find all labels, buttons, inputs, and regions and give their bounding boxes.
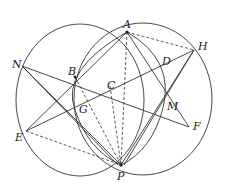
- arc-right-inner: [121, 32, 165, 165]
- label-G: G: [79, 103, 88, 116]
- label-H: H: [197, 40, 208, 53]
- line-NP2: [22, 66, 118, 165]
- label-N: N: [11, 58, 22, 71]
- label-D: D: [161, 55, 171, 68]
- label-A: A: [122, 18, 131, 31]
- label-B: B: [67, 65, 76, 78]
- point-P: [119, 163, 123, 167]
- line-AF: [127, 32, 189, 127]
- label-F: F: [192, 120, 201, 133]
- label-C: C: [107, 79, 116, 92]
- label-P: P: [116, 170, 125, 183]
- dash-CP: [110, 86, 121, 165]
- geometry-diagram: A H D N B C G M F E P: [0, 0, 225, 193]
- left-circle: [16, 24, 144, 176]
- label-M: M: [166, 100, 179, 113]
- dash-AP: [121, 32, 127, 165]
- right-circle: [74, 23, 212, 175]
- label-E: E: [14, 131, 23, 144]
- arc-left-inner: [72, 32, 127, 165]
